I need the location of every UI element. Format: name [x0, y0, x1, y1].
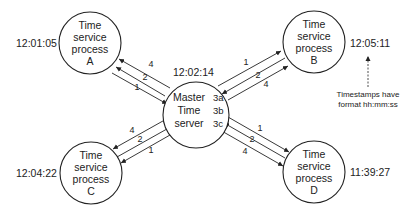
step-3a: 3a: [213, 92, 224, 103]
node-time-service-d: Time service process D 11:39:27: [283, 141, 390, 203]
edge-label: 4: [263, 79, 268, 89]
svg-text:server: server: [174, 117, 204, 129]
svg-text:format hh:mm:ss: format hh:mm:ss: [338, 100, 398, 109]
timestamp-a: 12:01:05: [16, 37, 57, 49]
node-master-time-server: Master Time server 3a 3b 3c 12:02:14: [163, 66, 229, 148]
edges-b-master: 1 2 4: [218, 51, 288, 100]
arrow-4-master-to-c: [113, 117, 170, 149]
node-time-service-a: Time service process A 12:01:05: [16, 12, 121, 74]
svg-text:A: A: [86, 55, 93, 67]
svg-text:Timestamps have: Timestamps have: [337, 90, 400, 99]
svg-text:Time: Time: [178, 104, 201, 116]
edge-label: 2: [142, 72, 147, 82]
svg-text:process: process: [296, 42, 333, 54]
edge-label: 1: [257, 123, 262, 133]
svg-text:Master: Master: [173, 91, 206, 103]
svg-text:service: service: [73, 31, 106, 43]
svg-text:process: process: [72, 43, 109, 55]
berkeley-algorithm-diagram: 4 2 1 1 2 4 4 2 1 1 2 4 Time service pro…: [0, 0, 408, 214]
svg-text:Time: Time: [303, 18, 326, 30]
svg-text:Time: Time: [79, 19, 102, 31]
timestamp-master: 12:02:14: [173, 66, 214, 78]
arrow-2-b-to-master: [222, 58, 285, 94]
node-time-service-c: Time service process C 12:04:22: [16, 142, 122, 204]
edge-label: 2: [137, 134, 142, 144]
timestamp-b: 12:05:11: [350, 37, 390, 49]
arrow-1-master-to-b: [218, 51, 281, 86]
edge-label: 1: [243, 57, 248, 67]
svg-text:service: service: [74, 161, 107, 173]
svg-text:B: B: [310, 54, 317, 66]
edge-label: 4: [242, 146, 247, 156]
edges-a-master: 4 2 1: [112, 59, 170, 104]
node-time-service-b: Time service process B 12:05:11: [283, 11, 390, 73]
arrow-2-c-to-master: [117, 125, 174, 157]
edge-label: 4: [129, 125, 134, 135]
edges-d-master: 1 2 4: [220, 117, 289, 166]
svg-text:Time: Time: [80, 149, 103, 161]
edge-label: 1: [148, 145, 153, 155]
edge-label: 2: [249, 134, 254, 144]
edge-label: 2: [255, 70, 260, 80]
svg-text:service: service: [297, 30, 330, 42]
svg-text:D: D: [310, 184, 318, 196]
svg-text:service: service: [297, 160, 330, 172]
timestamp-format-note: Timestamps have format hh:mm:ss: [337, 56, 400, 109]
svg-text:process: process: [296, 172, 333, 184]
svg-text:Time: Time: [303, 148, 326, 160]
step-3c: 3c: [213, 118, 223, 129]
timestamp-c: 12:04:22: [16, 167, 57, 179]
edge-label: 1: [134, 82, 139, 92]
timestamp-d: 11:39:27: [350, 166, 390, 178]
svg-text:C: C: [87, 185, 95, 197]
svg-text:process: process: [73, 173, 110, 185]
step-3b: 3b: [213, 105, 224, 116]
edge-label: 4: [148, 59, 153, 69]
